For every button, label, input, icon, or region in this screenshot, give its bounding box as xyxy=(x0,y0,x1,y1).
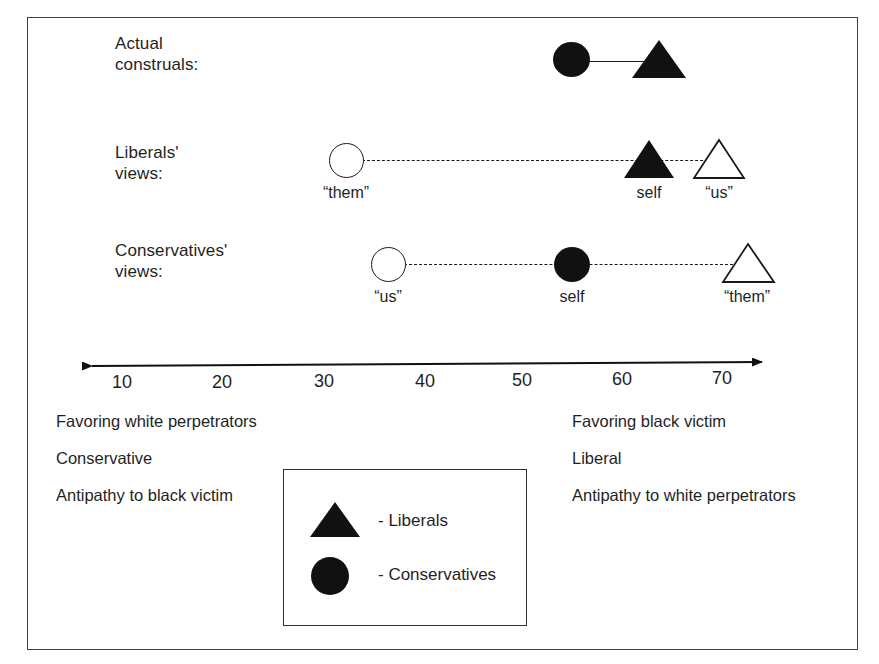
right-anchor-favoring-black-victim: Favoring black victim xyxy=(572,412,726,431)
row-label-conservatives-views: Conservatives' views: xyxy=(115,240,227,282)
row-label-liberals-views: Liberals' views: xyxy=(115,142,179,184)
marker-actual-conservatives-circle xyxy=(553,42,590,77)
marker-liberals-self-triangle xyxy=(622,138,676,180)
left-anchor-conservative: Conservative xyxy=(56,449,152,468)
point-label-liberals-us: “us” xyxy=(669,184,769,202)
marker-conservatives-us-circle xyxy=(371,247,406,282)
point-label-liberals-them: “them” xyxy=(296,184,396,202)
point-label-conservatives-them: “them” xyxy=(697,288,797,306)
point-label-conservatives-self: self xyxy=(522,288,622,306)
legend-liberals-triangle-icon xyxy=(308,500,362,540)
x-tick-label-40: 40 xyxy=(405,371,445,392)
point-label-conservatives-us: “us” xyxy=(338,288,438,306)
left-anchor-favoring-white-perpetrators: Favoring white perpetrators xyxy=(56,412,257,431)
figure-canvas: Actual construals: Liberals' views: Cons… xyxy=(0,0,879,664)
x-tick-label-60: 60 xyxy=(602,369,642,390)
marker-liberals-us-triangle xyxy=(692,138,746,180)
legend-conservatives-circle-icon xyxy=(309,556,353,598)
right-anchor-liberal: Liberal xyxy=(572,449,622,468)
left-anchor-antipathy-to-black-victim: Antipathy to black victim xyxy=(56,486,233,505)
x-tick-label-20: 20 xyxy=(202,372,242,393)
marker-conservatives-them-triangle xyxy=(721,242,777,284)
x-tick-label-70: 70 xyxy=(702,368,742,389)
marker-conservatives-self-circle xyxy=(554,247,590,282)
x-tick-label-50: 50 xyxy=(502,370,542,391)
legend-label-liberals: - Liberals xyxy=(378,511,448,531)
x-tick-label-30: 30 xyxy=(304,371,344,392)
right-anchor-antipathy-to-white-perpetrators: Antipathy to white perpetrators xyxy=(572,486,796,505)
legend-box xyxy=(283,469,527,626)
marker-liberals-them-circle xyxy=(329,143,364,178)
marker-actual-liberals-triangle xyxy=(630,38,688,80)
legend-label-conservatives: - Conservatives xyxy=(378,565,496,585)
row-label-actual-construals: Actual construals: xyxy=(115,33,198,75)
x-tick-label-10: 10 xyxy=(102,372,142,393)
